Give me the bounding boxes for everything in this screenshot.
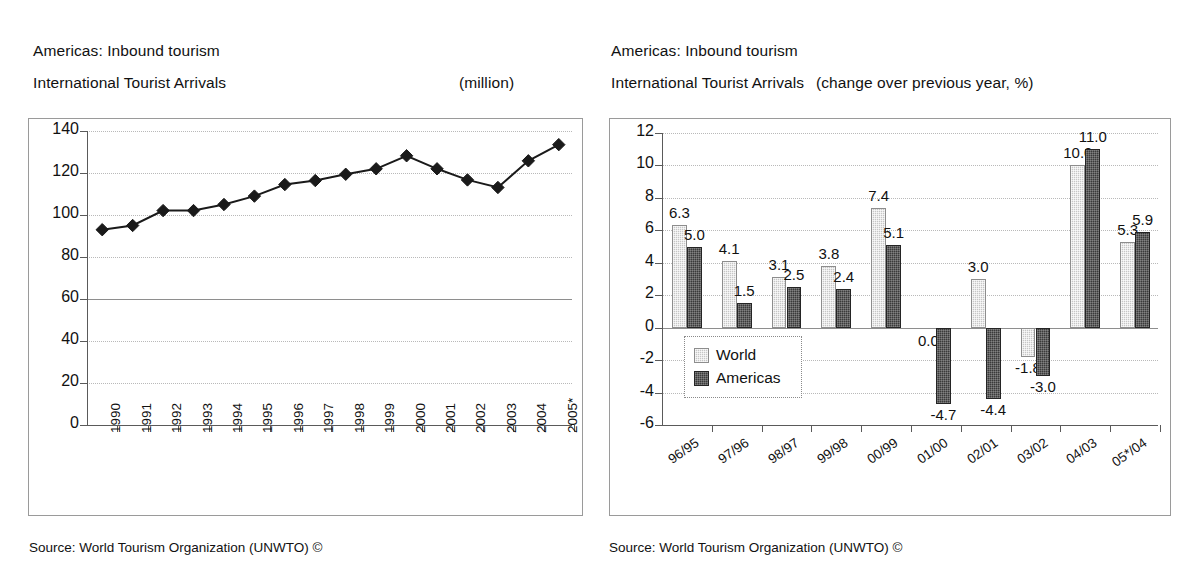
chart-legend: WorldAmericas <box>684 336 802 398</box>
bar-americas <box>1135 232 1150 328</box>
x-axis-tick <box>1060 425 1061 432</box>
bar-americas <box>986 328 1001 399</box>
bar-value-label: -3.0 <box>1017 378 1069 395</box>
line-data-point <box>431 163 443 175</box>
line-data-point <box>553 138 565 150</box>
y-axis-tick <box>655 263 662 264</box>
legend-swatch-americas <box>694 371 709 386</box>
y-axis-tick <box>655 165 662 166</box>
y-axis-label: -4 <box>614 382 654 400</box>
bar-value-label: 4.1 <box>703 240 755 257</box>
y-axis-label: 4 <box>614 252 654 270</box>
bar-world <box>1021 328 1036 357</box>
line-data-point <box>126 219 138 231</box>
bar-value-label: 5.1 <box>868 224 920 241</box>
y-axis-label: 10 <box>614 154 654 172</box>
bar-americas <box>886 245 901 328</box>
line-data-point <box>187 204 199 216</box>
bar-americas <box>787 287 802 328</box>
y-axis-line <box>662 133 663 425</box>
gridline-y <box>662 328 1158 329</box>
line-series-arrivals <box>29 119 584 517</box>
y-axis-tick <box>655 230 662 231</box>
bar-value-label: 11.0 <box>1067 128 1119 145</box>
bar-world <box>1120 242 1135 328</box>
y-axis-tick <box>655 393 662 394</box>
legend-swatch-world <box>694 348 709 363</box>
bar-americas <box>836 289 851 328</box>
y-axis-tick <box>655 328 662 329</box>
line-data-point <box>370 163 382 175</box>
x-axis-line <box>662 425 1158 426</box>
left-title-line2: International Tourist Arrivals <box>33 74 226 92</box>
bar-value-label: 7.4 <box>853 187 905 204</box>
y-axis-label: -2 <box>614 349 654 367</box>
bar-americas <box>936 328 951 404</box>
legend-label: World <box>716 346 756 364</box>
line-data-point <box>96 224 108 236</box>
left-source-note: Source: World Tourism Organization (UNWT… <box>29 540 323 555</box>
right-source-note: Source: World Tourism Organization (UNWT… <box>609 540 903 555</box>
bar-world <box>971 279 986 328</box>
right-unit-label: (change over previous year, %) <box>816 74 1034 92</box>
x-axis-tick <box>1011 425 1012 432</box>
bar-value-label: 5.0 <box>668 226 720 243</box>
y-axis-label: 6 <box>614 219 654 237</box>
line-data-point <box>218 198 230 210</box>
left-title-line1: Americas: Inbound tourism <box>33 42 220 60</box>
bar-world <box>772 277 787 327</box>
bar-chart-plot: -6-4-202468101296/9597/9698/9799/9800/99… <box>610 119 1170 515</box>
bar-americas <box>1085 149 1100 327</box>
line-chart-frame: 0204060801001201401990199119921993199419… <box>28 118 583 516</box>
left-chart-panel: Americas: Inbound tourism International … <box>0 0 594 573</box>
y-axis-label: 0 <box>614 317 654 335</box>
x-axis-tick <box>1110 425 1111 432</box>
x-axis-tick <box>762 425 763 432</box>
bar-value-label: 6.3 <box>653 204 705 221</box>
y-axis-tick <box>655 360 662 361</box>
bar-world <box>1070 165 1085 327</box>
y-axis-label: 2 <box>614 284 654 302</box>
bar-value-label: 2.5 <box>768 266 820 283</box>
y-axis-tick <box>655 133 662 134</box>
legend-item-americas: Americas <box>694 367 789 390</box>
bar-value-label: 2.4 <box>818 268 870 285</box>
legend-item-world: World <box>694 344 789 367</box>
right-chart-panel: Americas: Inbound tourism International … <box>594 0 1187 573</box>
x-axis-tick <box>1160 425 1161 432</box>
line-data-point <box>340 168 352 180</box>
x-axis-tick <box>712 425 713 432</box>
bar-value-label: -4.4 <box>967 401 1019 418</box>
bar-value-label: -4.7 <box>917 406 969 423</box>
line-data-point <box>157 204 169 216</box>
legend-label: Americas <box>716 369 781 387</box>
bar-value-label: 3.8 <box>803 245 855 262</box>
y-axis-label: 12 <box>614 122 654 140</box>
bar-value-label: 5.9 <box>1117 211 1169 228</box>
y-axis-tick <box>655 425 662 426</box>
y-axis-tick <box>655 295 662 296</box>
x-axis-tick <box>861 425 862 432</box>
line-chart-plot: 0204060801001201401990199119921993199419… <box>29 119 582 515</box>
line-data-point <box>279 178 291 190</box>
bar-americas <box>1036 328 1051 377</box>
x-axis-tick <box>961 425 962 432</box>
line-data-point <box>400 150 412 162</box>
y-axis-label: -6 <box>614 414 654 432</box>
y-axis-tick <box>655 198 662 199</box>
bar-value-label: 3.0 <box>952 258 1004 275</box>
right-title-line1: Americas: Inbound tourism <box>611 42 798 60</box>
line-data-point <box>309 174 321 186</box>
figure-page: Americas: Inbound tourism International … <box>0 0 1187 573</box>
x-axis-tick <box>911 425 912 432</box>
x-axis-tick <box>811 425 812 432</box>
bar-chart-frame: -6-4-202468101296/9597/9698/9799/9800/99… <box>609 118 1171 516</box>
bar-americas <box>737 303 752 327</box>
bar-value-label: 1.5 <box>718 282 770 299</box>
left-unit-label: (million) <box>459 74 514 92</box>
right-title-line2: International Tourist Arrivals <box>611 74 804 92</box>
line-data-point <box>248 190 260 202</box>
line-data-point <box>461 174 473 186</box>
bar-americas <box>687 247 702 328</box>
y-axis-label: 8 <box>614 187 654 205</box>
